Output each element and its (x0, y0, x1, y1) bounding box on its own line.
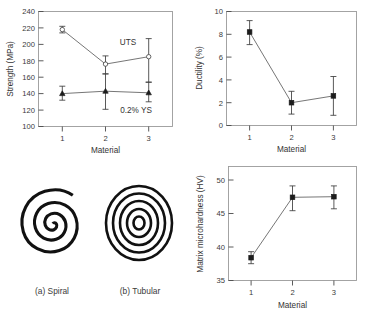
spiral-caption: (a) Spiral (8, 286, 96, 296)
y-tick-label: 35 (217, 276, 225, 285)
y-tick-label: 40 (217, 243, 225, 252)
y-tick-label: 8 (219, 30, 223, 39)
y-tick-label: 160 (22, 73, 35, 82)
y-tick-label: 240 (22, 7, 35, 16)
y-tick-label: 4 (219, 76, 223, 85)
spiral-path (22, 190, 77, 252)
y-tick-label: 50 (217, 176, 225, 185)
spiral-svg (14, 178, 90, 268)
strength-chart-panel: 240 220 200 180 160 140 120 100 1 2 3 Ma… (0, 0, 190, 160)
tubular-ring-1 (134, 217, 145, 230)
y-tick-label: 6 (219, 53, 223, 62)
x-tick-label: 2 (103, 134, 107, 143)
y-tick-label: 180 (22, 57, 35, 66)
y-axis-title: Ductility (%) (195, 46, 204, 90)
x-tick-label: 1 (249, 288, 253, 297)
x-axis-ticks (250, 126, 334, 131)
y-axis-ticks (229, 180, 234, 281)
y-tick-label: 100 (22, 122, 35, 131)
x-axis-ticks (62, 127, 148, 132)
plot-frame (229, 167, 357, 281)
y-tick-label: 10 (215, 7, 223, 16)
y-tick-label: 0 (219, 121, 223, 130)
x-tick-label: 3 (331, 133, 335, 142)
x-tick-label: 2 (289, 133, 293, 142)
x-axis-title: Material (91, 146, 120, 155)
y-tick-label: 200 (22, 40, 35, 49)
y-tick-label: 45 (217, 209, 225, 218)
y-tick-label: 2 (219, 99, 223, 108)
ductility-chart-panel: 10 8 6 4 2 0 1 2 3 Material Ductility (%… (190, 0, 374, 158)
y-axis-title: Matrix microhardness (HV) (196, 175, 205, 273)
x-axis-title: Material (278, 301, 307, 310)
coil-diagram-panel: (a) Spiral (b) Tubular (0, 160, 190, 316)
y-axis-ticks (39, 12, 44, 127)
strength-chart-svg: 240 220 200 180 160 140 120 100 1 2 3 Ma… (0, 0, 190, 160)
tubular-ring-2 (127, 209, 151, 237)
x-axis-title: Material (277, 145, 306, 154)
tubular-ring-3 (120, 201, 158, 245)
microhardness-chart-panel: 50 45 40 35 1 2 3 Material Matrix microh… (190, 158, 374, 316)
x-axis-ticks (251, 281, 334, 286)
x-tick-label: 3 (332, 288, 336, 297)
tubular-ring-5 (106, 186, 172, 260)
spiral-figure (14, 178, 90, 268)
tubular-caption: (b) Tubular (96, 286, 184, 296)
x-tick-label: 1 (60, 134, 64, 143)
ys-annotation: 0.2% YS (120, 106, 152, 115)
y-tick-label: 140 (22, 89, 35, 98)
tubular-svg (100, 178, 178, 268)
microhardness-chart-svg: 50 45 40 35 1 2 3 Material Matrix microh… (190, 158, 374, 316)
y-axis-title: Strength (MPa) (6, 41, 15, 97)
x-tick-label: 2 (290, 288, 294, 297)
x-tick-label: 1 (247, 133, 251, 142)
uts-annotation: UTS (120, 38, 137, 47)
y-tick-label: 120 (22, 106, 35, 115)
ductility-chart-svg: 10 8 6 4 2 0 1 2 3 Material Ductility (%… (190, 0, 374, 158)
x-tick-label: 3 (147, 134, 151, 143)
y-axis-ticks (227, 12, 232, 126)
tubular-figure (100, 178, 178, 268)
y-tick-label: 220 (22, 24, 35, 33)
